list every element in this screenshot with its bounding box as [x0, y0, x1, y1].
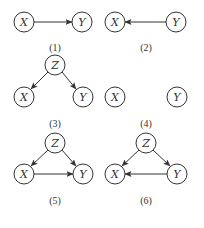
- node-z: Z: [45, 133, 65, 153]
- node-z: Z: [136, 133, 156, 153]
- edge-z-to-x: [31, 72, 48, 89]
- panel-3: Z X Y (3): [14, 55, 93, 130]
- node-y: Y: [167, 164, 187, 184]
- panel-5: Z X Y (5): [14, 133, 93, 207]
- node-y: Y: [72, 12, 92, 32]
- edge-z-to-x: [31, 150, 48, 166]
- edge-z-to-y: [153, 150, 170, 166]
- panel-label: (6): [140, 195, 152, 207]
- panel-label: (2): [140, 42, 152, 54]
- svg-text:X: X: [110, 168, 120, 181]
- node-x: X: [14, 12, 34, 32]
- node-y: Y: [73, 87, 93, 107]
- node-x: X: [14, 164, 34, 184]
- node-x: X: [105, 12, 125, 32]
- panel-label: (3): [49, 118, 61, 130]
- svg-text:Z: Z: [50, 137, 59, 150]
- node-y: Y: [167, 87, 187, 107]
- panel-6: Z X Y (6): [105, 133, 187, 207]
- edge-z-to-x: [122, 150, 139, 166]
- node-y: Y: [166, 12, 186, 32]
- node-x: X: [105, 164, 125, 184]
- node-x: X: [105, 87, 125, 107]
- panel-1: X Y (1): [14, 12, 92, 54]
- panel-4: X Y (4): [105, 87, 187, 130]
- node-y: Y: [73, 164, 93, 184]
- panel-2: X Y (2): [105, 12, 186, 54]
- svg-text:X: X: [19, 16, 29, 29]
- node-x: X: [14, 87, 34, 107]
- edge-z-to-y: [62, 150, 76, 166]
- panel-label: (4): [140, 118, 152, 130]
- svg-text:X: X: [110, 16, 120, 29]
- svg-text:X: X: [19, 91, 29, 104]
- causal-graphs-figure: X Y (1) X Y (2) Z X: [0, 0, 204, 228]
- node-z: Z: [45, 55, 65, 75]
- svg-text:Z: Z: [141, 137, 150, 150]
- svg-text:Z: Z: [50, 59, 59, 72]
- svg-text:X: X: [110, 91, 120, 104]
- svg-text:X: X: [19, 168, 29, 181]
- panel-label: (5): [49, 195, 61, 207]
- edge-z-to-y: [62, 72, 76, 89]
- panel-label: (1): [49, 42, 61, 54]
